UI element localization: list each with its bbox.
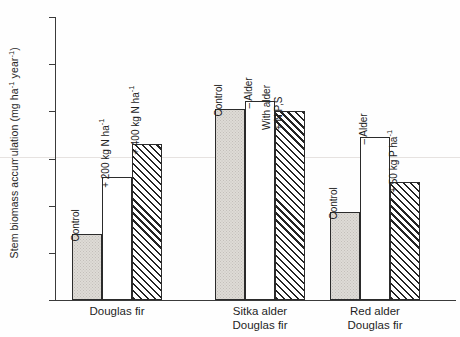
y-axis-label: Stem biomass accumulation (mg ha-1 year-…: [7, 47, 21, 258]
bar-chart-figure: Stem biomass accumulation (mg ha-1 year-…: [0, 0, 460, 337]
plot-area: 024681012 Control+ 200 kg N ha-1+ 400 kg…: [55, 17, 455, 300]
y-axis-tick: [49, 253, 55, 254]
bar-annotation-label: + 50 kg P ha-1: [384, 130, 399, 193]
bar: [215, 109, 245, 300]
y-axis-tick: [49, 64, 55, 65]
y-axis-tick: [49, 159, 55, 160]
bar-annotation-label: With alder+ N,P,S: [261, 85, 284, 130]
group-label: Sitka alderDouglas fir: [233, 305, 288, 332]
group-label: Red alderDouglas fir: [348, 305, 403, 332]
y-axis-tick: [49, 17, 55, 18]
y-axis-tick: [49, 111, 55, 112]
bar-annotation-label: + 200 kg N ha-1: [96, 119, 111, 188]
bar: [72, 234, 102, 300]
bar: [245, 101, 275, 300]
y-axis-tick: [49, 206, 55, 207]
y-axis-label-sup2: -1: [7, 50, 16, 57]
y-axis-label-base: Stem biomass accumulation (mg ha: [9, 88, 21, 258]
bar-annotation-label: Control: [213, 84, 225, 116]
bar: [390, 182, 420, 300]
bar-annotation-label: Control: [70, 209, 82, 241]
bar-annotation-label: + 400 kg N ha-1: [126, 86, 141, 155]
bar: [275, 111, 305, 300]
x-axis-line: [55, 300, 456, 301]
bar: [330, 212, 360, 300]
bar: [132, 144, 162, 300]
y-axis-label-sup1: -1: [7, 81, 16, 88]
y-axis-label-mid: year: [9, 57, 21, 81]
bar-annotation-label: – Alder: [243, 77, 255, 108]
y-axis-line: [55, 17, 56, 301]
y-axis-label-container: Stem biomass accumulation (mg ha-1 year-…: [0, 0, 28, 305]
bar-annotation-label: Control: [328, 187, 340, 219]
y-axis-label-close: ): [9, 47, 21, 51]
y-axis-tick: [49, 300, 55, 301]
group-label: Douglas fir: [90, 305, 145, 319]
bar-annotation-label: – Alder: [358, 114, 370, 145]
bar: [102, 177, 132, 300]
